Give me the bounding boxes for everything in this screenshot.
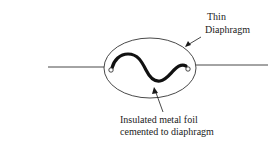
metal-foil bbox=[112, 54, 186, 81]
foil-arrow bbox=[155, 90, 163, 112]
foil-label-line1: Insulated metal foil bbox=[120, 114, 198, 126]
left-terminal bbox=[109, 68, 113, 72]
thin-diaphragm bbox=[104, 38, 196, 98]
foil-arrowhead bbox=[152, 87, 158, 94]
foil-label-line2: cemented to diaphragm bbox=[120, 126, 214, 138]
diaphragm-label-line1: Thin bbox=[207, 11, 226, 23]
diaphragm-arrowhead bbox=[185, 41, 191, 47]
right-terminal bbox=[186, 67, 190, 71]
diaphragm-label-line2: Diaphragm bbox=[205, 24, 250, 36]
